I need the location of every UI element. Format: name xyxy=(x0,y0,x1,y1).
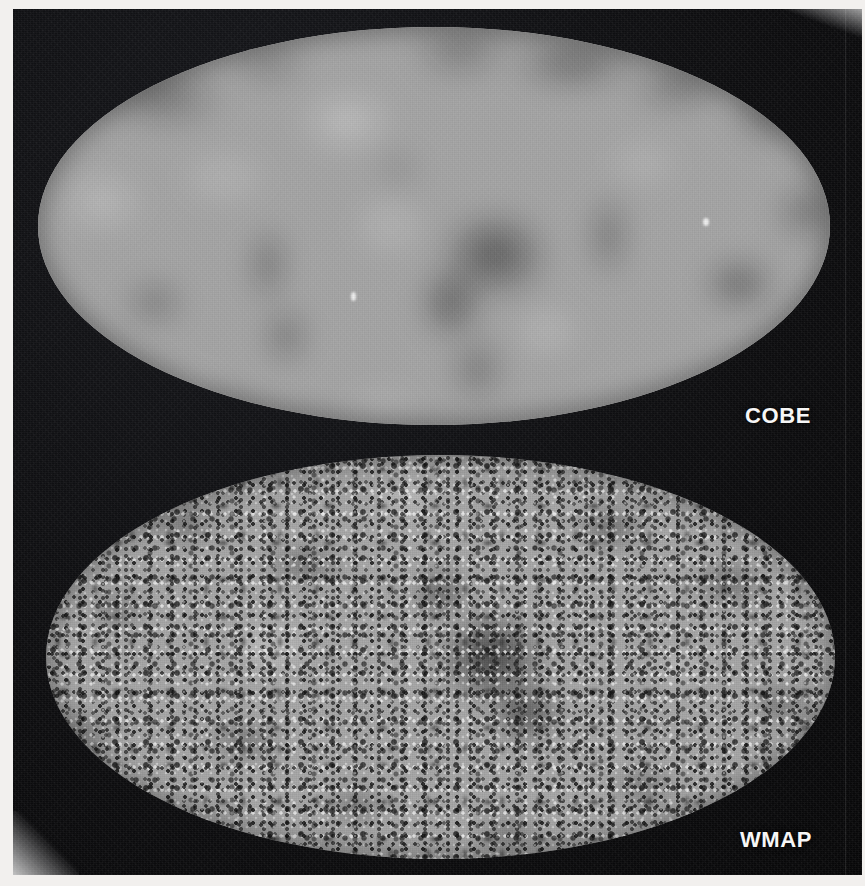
photographic-plate: COBE WMAP xyxy=(13,9,862,875)
cobe-sky-map xyxy=(38,27,830,425)
scan-seam-line xyxy=(845,9,846,875)
cobe-temperature-blobs xyxy=(38,27,830,425)
wmap-sky-map xyxy=(46,455,835,859)
cmb-comparison-figure: COBE WMAP xyxy=(0,0,865,886)
cobe-point-source xyxy=(351,292,356,301)
cobe-map-label: COBE xyxy=(745,403,811,429)
wmap-fine-speckle-layer-3 xyxy=(46,455,835,859)
wmap-map-label: WMAP xyxy=(740,827,812,853)
